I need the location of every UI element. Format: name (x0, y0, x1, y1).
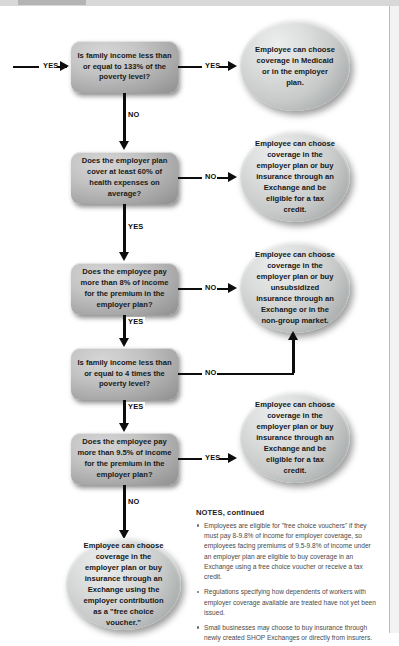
page-right-margin (390, 6, 399, 633)
d5-no-line (123, 485, 126, 532)
notes-title: NOTES, continued (196, 508, 376, 517)
entry-line-left (13, 66, 39, 69)
outcome-circle-unsubsidized-nongroup[interactable]: Employee can choose coverage in the empl… (240, 242, 350, 333)
outcome-text: Employee can choose coverage in Medicaid… (240, 44, 350, 88)
d1-no-label: NO (126, 110, 142, 119)
d2-no-line-a (178, 177, 202, 180)
d1-yes-arrowhead (228, 61, 237, 71)
page-edge-line (389, 6, 390, 633)
notes-list: Employees are eligible for "free choice … (196, 521, 376, 643)
d5-yes-arrowhead (228, 453, 237, 463)
decision-box-family-income-133[interactable]: Is family income less than or equal to 1… (71, 41, 178, 93)
notes-item: Employees are eligible for "free choice … (196, 521, 376, 582)
d2-yes-label: YES (126, 222, 145, 231)
outcome-circle-medicaid-or-employer[interactable]: Employee can choose coverage in Medicaid… (240, 20, 350, 111)
decision-text: Does the employee pay more than 8% of in… (77, 267, 172, 310)
d3-no-line-a (178, 288, 202, 291)
outcome-text: Employee can choose coverage in the empl… (66, 540, 181, 628)
notes-item: Small businesses may choose to buy insur… (196, 623, 376, 643)
d2-no-arrowhead (228, 172, 237, 182)
decision-box-employee-pay-9-5-percent[interactable]: Does the employee pay more than 9.5% of … (71, 433, 178, 485)
d4-yes-label: YES (126, 402, 145, 411)
d4-yes-arrowhead (119, 423, 129, 432)
outcome-circle-exchange-tax-credit-9-5[interactable]: Employee can choose coverage in the empl… (240, 392, 350, 483)
d1-yes-line-a (178, 66, 202, 69)
d4-no-arrowhead (288, 331, 298, 340)
d3-yes-arrowhead (119, 338, 129, 347)
scan-top-band-dark-segment (18, 0, 86, 5)
notes-section: NOTES, continued Employees are eligible … (196, 508, 376, 646)
decision-box-employee-pay-8-percent[interactable]: Does the employee pay more than 8% of in… (71, 263, 178, 315)
d5-yes-line-a (178, 458, 202, 461)
decision-box-family-income-4x-poverty[interactable]: Is family income less than or equal to 4… (71, 348, 178, 400)
decision-box-employer-plan-60-percent[interactable]: Does the employer plan cover at least 60… (71, 152, 178, 204)
d3-no-arrowhead (228, 283, 237, 293)
decision-text: Does the employee pay more than 9.5% of … (77, 437, 172, 480)
d4-no-line-vertical (292, 340, 295, 373)
outcome-circle-free-choice-voucher[interactable]: Employee can choose coverage in the empl… (66, 538, 181, 630)
outcome-text: Employee can choose coverage in the empl… (240, 249, 350, 326)
d3-yes-label: YES (126, 317, 145, 326)
decision-text: Does the employer plan cover at least 60… (77, 156, 172, 199)
outcome-text: Employee can choose coverage in the empl… (240, 399, 350, 476)
d5-no-label: NO (126, 497, 142, 506)
outcome-text: Employee can choose coverage in the empl… (240, 138, 350, 215)
d4-no-line-a (178, 373, 202, 376)
d4-no-line-b (217, 373, 294, 376)
notes-item: Regulations specifying how dependents of… (196, 587, 376, 618)
d1-no-arrowhead (119, 141, 129, 150)
d2-yes-arrowhead (119, 252, 129, 261)
decision-text: Is family income less than or equal to 1… (77, 51, 172, 83)
decision-text: Is family income less than or equal to 4… (77, 358, 172, 390)
entry-arrowhead (60, 61, 69, 71)
outcome-circle-exchange-tax-credit-60[interactable]: Employee can choose coverage in the empl… (240, 131, 350, 222)
